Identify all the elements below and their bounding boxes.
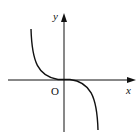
function-graph: y x O [0,0,139,138]
origin-label: O [51,85,59,97]
y-axis-label: y [52,10,58,22]
x-axis-arrow-icon [127,77,136,83]
x-axis-label: x [125,84,131,96]
y-axis-arrow-icon [61,13,67,22]
